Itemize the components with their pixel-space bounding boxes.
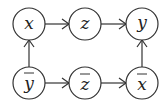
node-y: y (126, 8, 158, 40)
edge-ybar-to-zbar (45, 78, 69, 88)
node-z-label: z (80, 13, 91, 33)
node-x: x (13, 8, 45, 40)
causal-graph: x z y y z x (0, 0, 168, 108)
node-xbar: x (126, 67, 158, 99)
node-y-label: y (136, 12, 147, 32)
node-zbar: z (69, 67, 101, 99)
edge-x-to-z (45, 19, 69, 29)
node-xbar-label: x (137, 74, 147, 94)
edge-z-to-y (101, 19, 126, 29)
node-x-label: x (24, 13, 34, 33)
edge-zbar-to-xbar (101, 78, 126, 88)
node-z: z (69, 8, 101, 40)
node-ybar: y (13, 67, 45, 99)
edge-ybar-to-x (24, 40, 34, 67)
node-ybar-label: y (23, 73, 34, 93)
node-zbar-label: z (80, 74, 91, 94)
edge-xbar-to-y (137, 40, 147, 67)
